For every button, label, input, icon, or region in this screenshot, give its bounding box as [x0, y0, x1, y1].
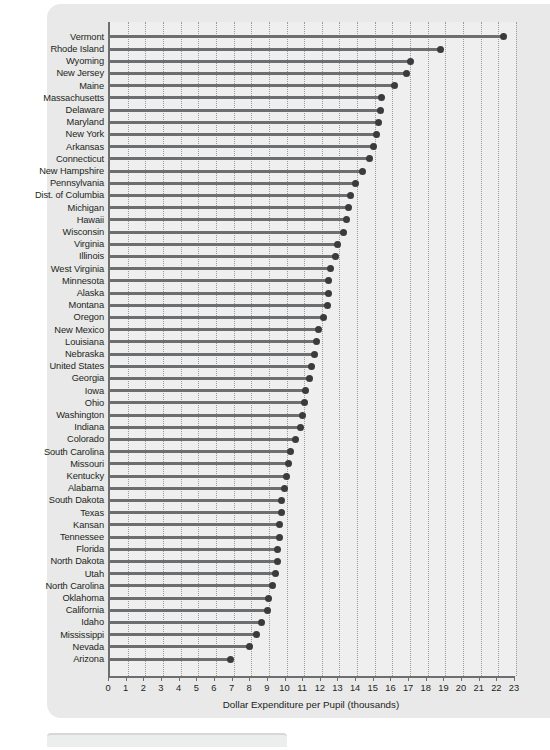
row-stem — [110, 414, 302, 417]
lollipop-row — [110, 629, 516, 641]
lollipop-row — [110, 519, 516, 531]
row-marker — [343, 216, 350, 223]
row-stem — [110, 304, 327, 307]
lollipop-row — [110, 299, 516, 311]
lollipop-row — [110, 177, 516, 189]
y-axis-label: Oregon — [0, 311, 104, 323]
y-axis-label: Dist. of Columbia — [0, 189, 104, 201]
lollipop-row — [110, 360, 516, 372]
row-stem — [110, 609, 267, 612]
lollipop-row — [110, 141, 516, 153]
x-axis-tick-label: 23 — [503, 683, 525, 693]
row-marker — [265, 595, 272, 602]
y-axis-label: Illinois — [0, 250, 104, 262]
lollipop-row — [110, 153, 516, 165]
row-stem — [110, 365, 311, 368]
lollipop-row — [110, 336, 516, 348]
x-axis-title: Dollar Expenditure per Pupil (thousands) — [108, 699, 514, 710]
y-axis-label: West Virginia — [0, 263, 104, 275]
row-marker — [274, 558, 281, 565]
y-axis-label: Minnesota — [0, 275, 104, 287]
lollipop-row — [110, 238, 516, 250]
row-stem — [110, 170, 362, 173]
lollipop-row — [110, 80, 516, 92]
y-axis-label: New York — [0, 128, 104, 140]
lollipop-row — [110, 67, 516, 79]
row-marker — [345, 204, 352, 211]
row-marker — [370, 143, 377, 150]
y-axis-label: Montana — [0, 299, 104, 311]
lollipop-row — [110, 275, 516, 287]
row-stem — [110, 389, 306, 392]
y-axis-label: New Mexico — [0, 324, 104, 336]
row-marker — [407, 58, 414, 65]
row-stem — [110, 206, 348, 209]
row-stem — [110, 182, 355, 185]
y-axis-label: Hawaii — [0, 214, 104, 226]
lollipop-row — [110, 311, 516, 323]
lollipop-row — [110, 543, 516, 555]
y-axis-label: Rhode Island — [0, 43, 104, 55]
lollipop-row — [110, 555, 516, 567]
row-stem — [110, 462, 288, 465]
lollipop-row — [110, 482, 516, 494]
x-axis-tick — [126, 676, 127, 681]
row-stem — [110, 658, 230, 661]
y-axis-label: Nevada — [0, 641, 104, 653]
row-marker — [301, 399, 308, 406]
lollipop-row — [110, 507, 516, 519]
lollipop-row — [110, 92, 516, 104]
y-axis-label: California — [0, 604, 104, 616]
row-stem — [110, 487, 285, 490]
row-marker — [324, 302, 331, 309]
y-axis-label: Maryland — [0, 116, 104, 128]
row-marker — [325, 290, 332, 297]
lollipop-row — [110, 250, 516, 262]
y-axis-label: Colorado — [0, 433, 104, 445]
row-marker — [253, 631, 260, 638]
row-marker — [297, 424, 304, 431]
row-stem — [110, 353, 315, 356]
y-axis-label: Wisconsin — [0, 226, 104, 238]
x-axis-tick — [496, 676, 497, 681]
y-axis-label: Alabama — [0, 482, 104, 494]
row-stem — [110, 96, 382, 99]
lollipop-row — [110, 287, 516, 299]
lollipop-row — [110, 128, 516, 140]
y-axis-label: Missouri — [0, 458, 104, 470]
x-axis-tick — [196, 676, 197, 681]
y-axis-label: Mississippi — [0, 629, 104, 641]
lollipop-row — [110, 226, 516, 238]
row-stem — [110, 340, 317, 343]
gridline-23 — [516, 22, 517, 676]
lollipop-row — [110, 604, 516, 616]
y-axis-label: Tennessee — [0, 531, 104, 543]
row-stem — [110, 145, 373, 148]
row-marker — [292, 436, 299, 443]
y-axis-label: Georgia — [0, 372, 104, 384]
row-stem — [110, 633, 257, 636]
lollipop-row — [110, 165, 516, 177]
x-axis-tick — [179, 676, 180, 681]
row-stem — [110, 157, 369, 160]
y-axis-label: Massachusetts — [0, 92, 104, 104]
row-stem — [110, 292, 329, 295]
row-marker — [302, 387, 309, 394]
y-axis-label: Washington — [0, 409, 104, 421]
y-axis-label: Utah — [0, 568, 104, 580]
y-axis-label: Arizona — [0, 653, 104, 665]
row-stem — [110, 560, 278, 563]
y-axis-label: Iowa — [0, 385, 104, 397]
lollipop-row — [110, 55, 516, 67]
y-axis-label: Vermont — [0, 31, 104, 43]
x-axis-tick — [302, 676, 303, 681]
row-marker — [327, 265, 334, 272]
row-stem — [110, 511, 281, 514]
x-axis-tick — [426, 676, 427, 681]
plot-area — [108, 22, 516, 676]
row-stem — [110, 35, 504, 38]
lollipop-row — [110, 202, 516, 214]
row-marker — [352, 180, 359, 187]
